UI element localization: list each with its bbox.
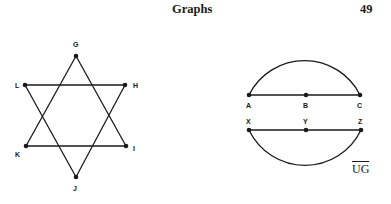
point-b bbox=[304, 93, 309, 98]
point-x bbox=[247, 128, 252, 133]
star-figure bbox=[25, 56, 126, 177]
circle-points bbox=[247, 93, 364, 133]
label-g: G bbox=[73, 41, 79, 48]
label-z: Z bbox=[358, 118, 363, 125]
label-x: X bbox=[246, 118, 251, 125]
point-c bbox=[358, 93, 363, 98]
point-y bbox=[304, 128, 309, 133]
arc-bottom bbox=[249, 130, 361, 165]
label-i: I bbox=[133, 145, 135, 152]
point-i bbox=[124, 144, 129, 149]
ug-label: UG bbox=[352, 162, 369, 177]
arc-top bbox=[249, 61, 360, 95]
label-k: K bbox=[15, 151, 20, 158]
point-g bbox=[74, 54, 79, 59]
triangle-lhj bbox=[25, 85, 125, 177]
label-h: H bbox=[133, 82, 138, 89]
figures: G H I J K L A B C X Y Z bbox=[0, 0, 391, 204]
label-a: A bbox=[246, 102, 251, 109]
label-b: B bbox=[303, 102, 308, 109]
circle-figure bbox=[249, 61, 361, 166]
triangle-gik bbox=[26, 56, 126, 146]
label-y: Y bbox=[303, 118, 308, 125]
point-a bbox=[247, 93, 252, 98]
point-h bbox=[123, 83, 128, 88]
point-z bbox=[359, 128, 364, 133]
label-j: J bbox=[73, 185, 77, 192]
star-points bbox=[23, 54, 129, 180]
point-j bbox=[74, 175, 79, 180]
label-l: L bbox=[15, 82, 20, 89]
point-k bbox=[24, 144, 29, 149]
label-c: C bbox=[357, 102, 362, 109]
point-l bbox=[23, 83, 28, 88]
